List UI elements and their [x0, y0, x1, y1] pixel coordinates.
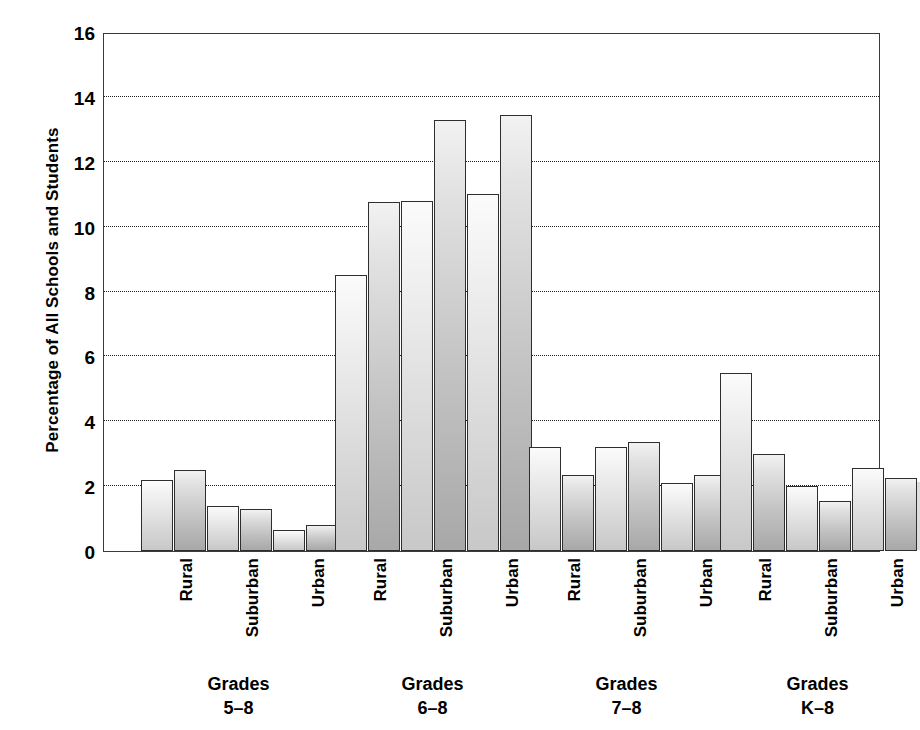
bar	[500, 115, 532, 551]
bar	[240, 509, 272, 551]
bar	[661, 483, 693, 551]
plot-area	[103, 33, 880, 552]
gridline-12	[104, 161, 879, 162]
y-tick-label-0: 0	[55, 543, 95, 562]
bar	[207, 506, 239, 551]
group-label-line1: Grades	[401, 674, 463, 694]
y-tick-label-2: 2	[55, 478, 95, 497]
group-label-line1: Grades	[595, 674, 657, 694]
x-axis-tick-labels: RuralSuburbanUrbanRuralSuburbanUrbanRura…	[103, 558, 880, 668]
x-axis-group-labels: Grades5–8Grades6–8Grades7–8GradesK–8	[103, 672, 880, 724]
y-tick-label-8: 8	[55, 283, 95, 302]
x-tick-label-rural: Rural	[564, 558, 586, 678]
x-tick-label-rural: Rural	[370, 558, 392, 678]
bar	[306, 525, 338, 551]
x-tick-label-suburban: Suburban	[630, 558, 652, 678]
bar	[141, 480, 173, 551]
x-tick-label-urban: Urban	[887, 558, 909, 678]
y-axis-title-container: Percentage of All Schools and Students	[2, 10, 36, 570]
y-axis-tick-labels: 1614121086420	[50, 33, 95, 552]
group-label-3: GradesK–8	[748, 672, 888, 720]
y-tick-label-16: 16	[55, 24, 95, 43]
cropped-title-remnant	[330, 0, 800, 5]
y-tick-label-14: 14	[55, 88, 95, 107]
group-label-line2: 6–8	[363, 696, 503, 720]
group-label-line2: 7–8	[557, 696, 697, 720]
y-tick-label-6: 6	[55, 348, 95, 367]
group-label-0: Grades5–8	[169, 672, 309, 720]
bar	[401, 201, 433, 551]
y-tick-label-10: 10	[55, 218, 95, 237]
bar	[368, 202, 400, 551]
x-tick-label-rural: Rural	[176, 558, 198, 678]
bar	[562, 475, 594, 551]
group-label-2: Grades7–8	[557, 672, 697, 720]
bar	[595, 447, 627, 551]
bar	[335, 275, 367, 551]
group-label-line2: K–8	[748, 696, 888, 720]
bar	[786, 486, 818, 551]
bar	[628, 442, 660, 551]
group-label-line2: 5–8	[169, 696, 309, 720]
x-tick-label-suburban: Suburban	[821, 558, 843, 678]
x-tick-label-rural: Rural	[755, 558, 777, 678]
bar	[720, 373, 752, 551]
bar	[753, 454, 785, 551]
x-tick-label-urban: Urban	[696, 558, 718, 678]
bar	[467, 194, 499, 551]
group-label-1: Grades6–8	[363, 672, 503, 720]
bar	[819, 501, 851, 551]
bar	[529, 447, 561, 551]
bar	[174, 470, 206, 551]
y-tick-label-4: 4	[55, 413, 95, 432]
x-tick-label-urban: Urban	[502, 558, 524, 678]
group-label-line1: Grades	[786, 674, 848, 694]
group-label-line1: Grades	[207, 674, 269, 694]
x-tick-label-urban: Urban	[308, 558, 330, 678]
x-tick-label-suburban: Suburban	[436, 558, 458, 678]
bar	[885, 478, 917, 551]
bar	[273, 530, 305, 551]
bar	[434, 120, 466, 551]
x-tick-label-suburban: Suburban	[242, 558, 264, 678]
bar	[852, 468, 884, 551]
gridline-14	[104, 96, 879, 97]
y-tick-label-12: 12	[55, 153, 95, 172]
